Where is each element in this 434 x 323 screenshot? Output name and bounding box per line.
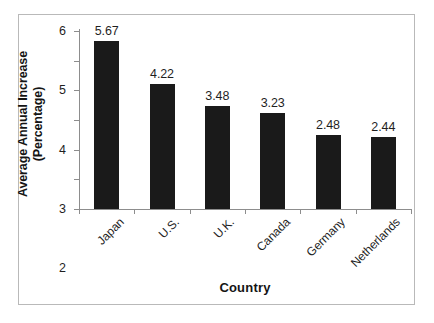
y-tick-mark: 3	[74, 120, 79, 121]
y-axis-title-line-1: Average Annual Increase	[16, 51, 31, 197]
x-tick-mark	[79, 209, 80, 214]
y-tick-label: 4	[59, 143, 66, 157]
y-tick-label: 2	[59, 261, 66, 275]
bar-value-label: 3.23	[261, 96, 285, 110]
bar[interactable]	[205, 106, 230, 209]
bar[interactable]	[150, 84, 175, 209]
bar-value-label: 2.44	[371, 120, 395, 134]
y-axis-line	[79, 29, 80, 211]
bar[interactable]	[94, 41, 119, 209]
bar[interactable]	[371, 137, 396, 209]
y-tick-label: 6	[59, 24, 66, 38]
x-tick-mark	[245, 209, 246, 214]
y-tick-label: 3	[59, 202, 66, 216]
x-tick-mark	[300, 209, 301, 214]
x-tick-mark	[411, 209, 412, 214]
bar[interactable]	[260, 113, 285, 209]
y-tick-mark: 5	[74, 61, 79, 62]
bar-value-label: 5.67	[95, 24, 119, 38]
y-tick-mark: 1	[74, 179, 79, 180]
bar-value-label: 3.48	[205, 89, 229, 103]
bar[interactable]	[316, 135, 341, 209]
x-tick-mark	[134, 209, 135, 214]
y-tick-mark: 6	[74, 31, 79, 32]
y-tick-mark: 4	[74, 90, 79, 91]
bar-chart-figure: Average Annual Increase (Percentage) 012…	[0, 0, 434, 323]
plot-area: 0123456 5.674.223.483.232.482.44 JapanU.…	[79, 31, 411, 209]
y-axis-title: Average Annual Increase (Percentage)	[11, 24, 51, 224]
bar-value-label: 2.48	[316, 118, 340, 132]
y-axis-title-line-2: (Percentage)	[31, 87, 46, 162]
y-tick-label: 5	[59, 83, 66, 97]
bar-value-label: 4.22	[150, 67, 174, 81]
y-tick-mark: 2	[74, 150, 79, 151]
x-tick-mark	[356, 209, 357, 214]
x-tick-mark	[190, 209, 191, 214]
x-axis-title: Country	[79, 280, 411, 295]
